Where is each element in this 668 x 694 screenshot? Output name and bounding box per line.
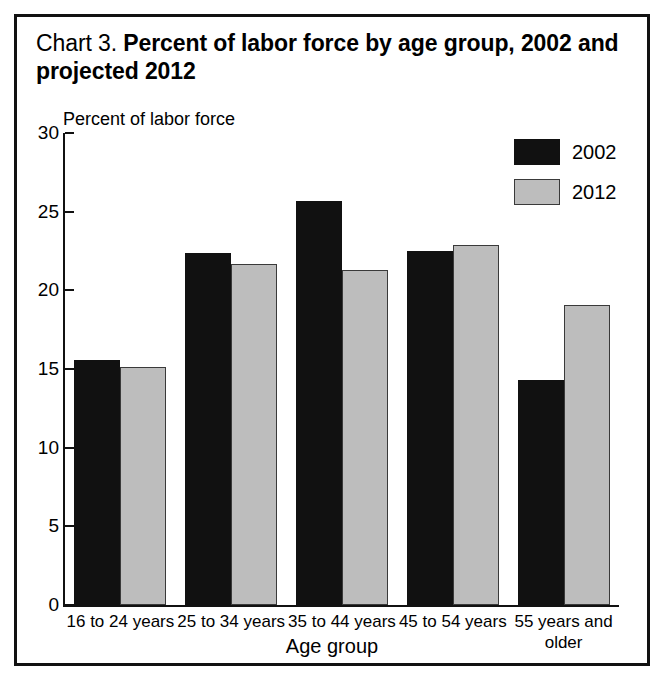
plot-area: Percent of labor force 051015202530 16 t… bbox=[17, 17, 647, 663]
x-axis-title: Age group bbox=[17, 635, 647, 658]
x-tick-label: 16 to 24 years bbox=[65, 611, 176, 632]
x-axis-line bbox=[63, 605, 619, 607]
x-tick-label: 25 to 34 years bbox=[176, 611, 287, 632]
bar-group bbox=[185, 133, 277, 605]
y-tick-label: 5 bbox=[17, 516, 59, 535]
bar-2012-3 bbox=[342, 270, 388, 605]
y-tick-label-text: 20 bbox=[19, 280, 59, 299]
y-tick-label-text: 15 bbox=[19, 359, 59, 378]
chart-frame: Chart 3. Percent of labor force by age g… bbox=[14, 14, 650, 666]
y-tick-label: 0 bbox=[17, 595, 59, 614]
y-axis-title: Percent of labor force bbox=[63, 109, 235, 130]
bar-2002-4 bbox=[407, 251, 453, 605]
bar-2002-2 bbox=[185, 253, 231, 605]
bar-2002-3 bbox=[296, 201, 342, 605]
bar-2002-1 bbox=[74, 360, 120, 605]
legend-item-2002: 2002 bbox=[514, 139, 644, 165]
bar-2012-5 bbox=[564, 305, 610, 606]
y-tick-label-text: 30 bbox=[19, 123, 59, 142]
y-tick-label-text: 5 bbox=[19, 516, 59, 535]
bar-2002-5 bbox=[518, 380, 564, 605]
x-tick-label: 45 to 54 years bbox=[397, 611, 508, 632]
x-tick-label: 35 to 44 years bbox=[287, 611, 398, 632]
y-tick-label: 20 bbox=[17, 280, 59, 299]
bar-group bbox=[296, 133, 388, 605]
legend-swatch-2002-icon bbox=[514, 139, 560, 165]
legend-swatch-2012-icon bbox=[514, 179, 560, 205]
y-tick-label: 30 bbox=[17, 123, 59, 142]
y-tick-label: 25 bbox=[17, 202, 59, 221]
y-tick-label-text: 25 bbox=[19, 202, 59, 221]
legend-label-2012: 2012 bbox=[572, 182, 617, 202]
y-tick-label-text: 0 bbox=[19, 595, 59, 614]
bar-2012-4 bbox=[453, 245, 499, 605]
bar-group bbox=[407, 133, 499, 605]
bar-2012-2 bbox=[231, 264, 277, 605]
bar-group bbox=[74, 133, 166, 605]
legend-item-2012: 2012 bbox=[514, 179, 644, 205]
y-tick-label-text: 10 bbox=[19, 438, 59, 457]
legend-label-2002: 2002 bbox=[572, 142, 617, 162]
bar-2012-1 bbox=[120, 367, 166, 605]
legend: 2002 2012 bbox=[514, 139, 644, 219]
y-tick-label: 10 bbox=[17, 438, 59, 457]
y-tick-label: 15 bbox=[17, 359, 59, 378]
